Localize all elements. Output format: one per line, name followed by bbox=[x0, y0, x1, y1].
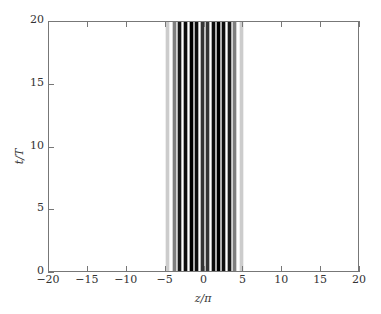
y-tick bbox=[48, 209, 54, 210]
x-tick bbox=[281, 266, 282, 272]
x-axis-label: z/π bbox=[195, 292, 212, 305]
x-tick-label: −15 bbox=[75, 273, 98, 286]
intensity-stripe bbox=[232, 22, 237, 271]
y-tick-label: 5 bbox=[18, 201, 44, 214]
intensity-stripe bbox=[189, 22, 194, 271]
x-tick bbox=[359, 266, 360, 272]
x-tick bbox=[359, 21, 360, 27]
x-tick-label: 15 bbox=[313, 273, 327, 286]
x-tick bbox=[242, 21, 243, 27]
x-tick-label: 10 bbox=[274, 273, 288, 286]
intensity-stripe bbox=[200, 22, 205, 271]
x-tick bbox=[87, 266, 88, 272]
y-tick bbox=[48, 21, 54, 22]
x-tick-label: 0 bbox=[200, 273, 207, 286]
x-tick bbox=[204, 266, 205, 272]
intensity-stripe bbox=[221, 22, 226, 271]
intensity-stripe bbox=[183, 22, 188, 271]
intensity-stripe bbox=[216, 22, 221, 271]
x-tick bbox=[126, 266, 127, 272]
x-tick-label: −5 bbox=[157, 273, 173, 286]
y-tick-label: 20 bbox=[18, 13, 44, 26]
intensity-stripe bbox=[205, 22, 210, 271]
heatmap-plot-area bbox=[48, 21, 359, 272]
x-tick bbox=[204, 21, 205, 27]
y-tick bbox=[48, 147, 54, 148]
x-tick-label: 5 bbox=[239, 273, 246, 286]
y-tick bbox=[48, 272, 54, 273]
intensity-stripe bbox=[172, 22, 177, 271]
intensity-stripe bbox=[239, 22, 244, 271]
intensity-stripe bbox=[194, 22, 199, 271]
intensity-stripe bbox=[211, 22, 216, 271]
x-tick bbox=[320, 266, 321, 272]
x-tick bbox=[165, 21, 166, 27]
x-tick bbox=[165, 266, 166, 272]
x-tick bbox=[320, 21, 321, 27]
y-tick-label: 10 bbox=[18, 139, 44, 152]
y-tick bbox=[48, 84, 54, 85]
x-tick-label: −10 bbox=[114, 273, 137, 286]
intensity-stripe bbox=[177, 22, 182, 271]
y-tick-label: 15 bbox=[18, 76, 44, 89]
x-tick bbox=[126, 21, 127, 27]
x-tick bbox=[87, 21, 88, 27]
intensity-stripe bbox=[227, 22, 232, 271]
intensity-stripe bbox=[165, 22, 170, 271]
x-tick bbox=[281, 21, 282, 27]
x-tick bbox=[242, 266, 243, 272]
y-tick-label: 0 bbox=[18, 264, 44, 277]
x-tick-label: 20 bbox=[352, 273, 366, 286]
